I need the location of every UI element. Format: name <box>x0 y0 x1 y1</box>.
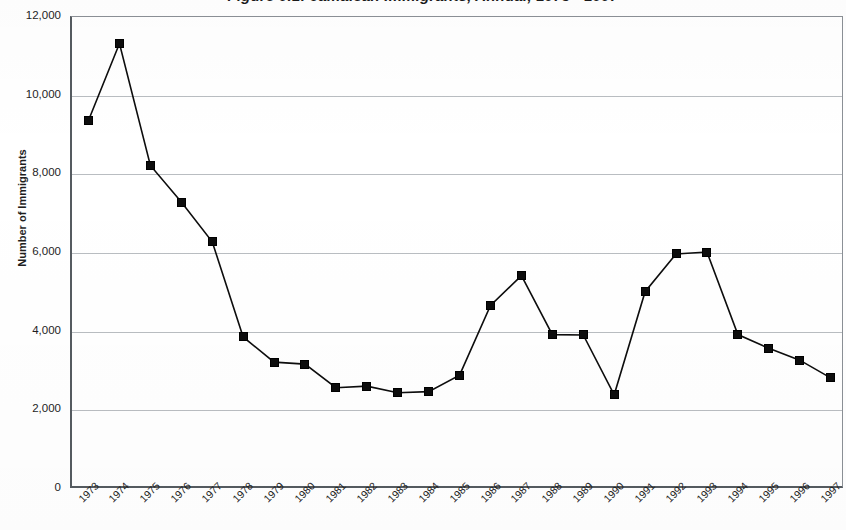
chart-title: Figure 9.1: Jamaican Immigrants, Annual,… <box>0 0 846 4</box>
data-point-marker <box>270 358 279 367</box>
data-point-marker <box>393 388 402 397</box>
data-point-marker <box>455 371 464 380</box>
data-point-marker <box>610 390 619 399</box>
y-tick-label: 4,000 <box>5 324 61 336</box>
data-point-marker <box>641 287 650 296</box>
data-point-marker <box>424 387 433 396</box>
y-tick-label: 8,000 <box>5 166 61 178</box>
y-tick-label: 2,000 <box>5 402 61 414</box>
data-point-marker <box>672 249 681 258</box>
y-tick-label: 12,000 <box>5 9 61 21</box>
chart-figure: Figure 9.1: Jamaican Immigrants, Annual,… <box>0 0 846 530</box>
data-point-marker <box>548 330 557 339</box>
data-point-marker <box>115 39 124 48</box>
data-point-marker <box>208 237 217 246</box>
gridline <box>72 332 842 333</box>
data-point-marker <box>579 330 588 339</box>
y-axis-title: Number of Immigrants <box>16 98 28 318</box>
data-point-marker <box>702 248 711 257</box>
data-point-marker <box>517 271 526 280</box>
data-point-marker <box>300 360 309 369</box>
data-point-marker <box>177 198 186 207</box>
data-point-marker <box>362 382 371 391</box>
y-tick-label: 0 <box>5 481 61 493</box>
gridline <box>72 410 842 411</box>
data-point-marker <box>795 356 804 365</box>
y-tick-label: 6,000 <box>5 245 61 257</box>
plot-area <box>70 16 843 488</box>
data-point-marker <box>84 116 93 125</box>
data-point-marker <box>239 332 248 341</box>
data-point-marker <box>146 161 155 170</box>
data-point-marker <box>486 301 495 310</box>
data-point-marker <box>764 344 773 353</box>
data-point-marker <box>733 330 742 339</box>
data-point-marker <box>826 373 835 382</box>
data-point-marker <box>331 383 340 392</box>
gridline <box>72 96 842 97</box>
gridline <box>72 253 842 254</box>
gridline <box>72 174 842 175</box>
y-tick-label: 10,000 <box>5 88 61 100</box>
